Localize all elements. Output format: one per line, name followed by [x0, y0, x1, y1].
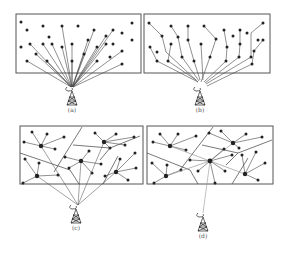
link: [30, 44, 71, 87]
sensor-node: [38, 162, 41, 165]
sensor-node: [88, 150, 91, 153]
link: [37, 175, 58, 176]
panel-label: (d): [199, 232, 208, 239]
lattice-tower-icon: [67, 91, 77, 105]
sensor-node: [23, 141, 26, 144]
sensor-node: [46, 60, 49, 63]
sensor-node: [223, 29, 226, 32]
sensor-node: [156, 51, 159, 54]
antenna-signal-icon: [70, 205, 77, 209]
sensor-node: [149, 46, 152, 49]
sensor-node: [152, 141, 155, 144]
sensor-node: [127, 179, 130, 182]
cluster-boundary: [147, 153, 198, 184]
sensor-node: [193, 60, 196, 63]
sensor-node: [100, 163, 103, 166]
link: [170, 136, 196, 146]
sensor-node: [166, 164, 169, 167]
sensor-node: [156, 60, 159, 63]
sensor-node: [109, 56, 112, 59]
sensor-node: [239, 29, 242, 32]
sensor-node: [161, 35, 164, 38]
link: [65, 157, 81, 161]
sensor-node: [77, 25, 80, 28]
uplink: [203, 161, 210, 213]
cluster-boundary: [100, 148, 110, 160]
sensor-node: [246, 32, 249, 35]
sensor-node: [181, 56, 184, 59]
sensor-node: [119, 158, 122, 161]
sensor-node: [151, 162, 154, 165]
sensor-node: [232, 35, 235, 38]
sensor-node: [195, 135, 198, 138]
sensor-node: [257, 179, 260, 182]
antenna-signal-icon: [194, 87, 201, 91]
sensor-node: [226, 46, 229, 49]
sensor-node: [26, 29, 29, 32]
sensor-node: [71, 60, 74, 63]
panel-a: (a): [16, 14, 141, 113]
sensor-node: [224, 170, 227, 173]
link: [152, 163, 166, 176]
link: [73, 30, 113, 87]
panel-c: (c): [20, 126, 143, 231]
sensor-node: [231, 154, 234, 157]
link: [206, 23, 263, 84]
sensor-node: [170, 43, 173, 46]
link: [221, 131, 233, 143]
sensor-node: [35, 53, 38, 56]
sensor-node: [223, 148, 226, 151]
sensor-node: [200, 43, 203, 46]
sensor-node: [209, 56, 212, 59]
link: [73, 61, 98, 87]
antenna-signal-icon: [197, 213, 204, 217]
link: [25, 159, 37, 176]
tower-icon: [197, 213, 208, 231]
sensor-node: [96, 60, 99, 63]
cluster-head: [231, 141, 235, 145]
sensor-node: [61, 25, 64, 28]
panel-d: (d): [147, 126, 273, 239]
sensor-node: [105, 43, 108, 46]
link: [62, 26, 72, 87]
sensor-node: [22, 182, 25, 185]
link: [168, 44, 196, 80]
uplink: [37, 176, 78, 205]
link: [242, 155, 245, 174]
sensor-node: [153, 182, 156, 185]
sensor-node: [257, 39, 260, 42]
panel-label: (c): [72, 224, 80, 231]
lattice-tower-icon: [71, 209, 81, 223]
sensor-node: [264, 162, 267, 165]
cluster-boundary: [54, 127, 82, 172]
sensor-node: [20, 46, 23, 49]
link: [104, 137, 134, 142]
sensor-node: [42, 43, 45, 46]
cluster-boundary: [232, 158, 248, 184]
cluster-head: [35, 174, 39, 178]
uplink: [78, 142, 104, 205]
link: [73, 44, 106, 87]
tower-icon: [66, 87, 77, 105]
link: [52, 44, 72, 87]
sensor-node: [262, 22, 265, 25]
sensor-node: [189, 159, 192, 162]
sensor-node: [29, 43, 32, 46]
link: [207, 40, 263, 86]
figure-svg: (a)(b)(c)(d): [0, 0, 289, 255]
sensor-node: [42, 25, 45, 28]
link: [201, 26, 216, 82]
sensor-node: [197, 170, 200, 173]
link: [81, 161, 101, 164]
tower-icon: [194, 87, 205, 105]
sensor-node: [170, 25, 173, 28]
sensor-node: [104, 175, 107, 178]
link: [188, 26, 200, 80]
cluster-head: [164, 174, 168, 178]
sensor-node: [48, 36, 51, 39]
link: [201, 44, 203, 80]
sensor-node: [238, 56, 241, 59]
sensor-node: [167, 60, 170, 63]
sensor-node: [26, 60, 29, 63]
sensor-node: [121, 50, 124, 53]
